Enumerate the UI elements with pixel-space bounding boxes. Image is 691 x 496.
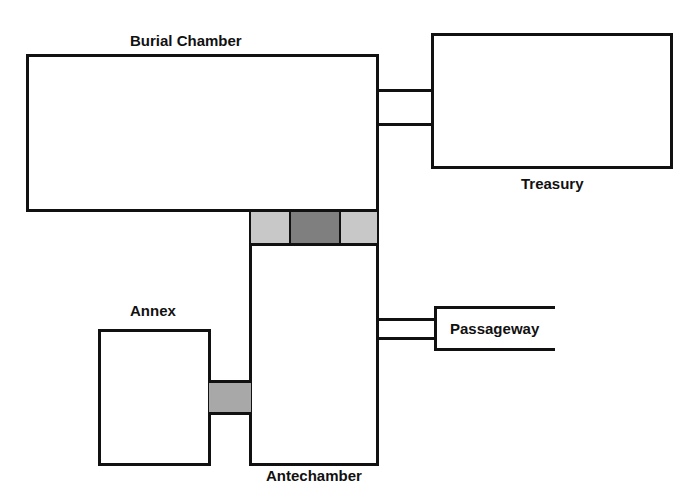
sealed-doorway-left-segment <box>249 210 291 245</box>
antechamber-room <box>249 243 379 466</box>
passageway-corridor-bottom-line <box>378 337 436 340</box>
annex-label: Annex <box>130 302 176 319</box>
passageway-corridor-top-line <box>378 318 436 321</box>
passageway-top-line <box>434 306 555 309</box>
passageway-label: Passageway <box>450 320 539 337</box>
burial-chamber-room <box>26 54 379 212</box>
treasury-label: Treasury <box>521 175 584 192</box>
sealed-doorway-center-segment <box>289 210 341 245</box>
annex-room <box>98 329 211 466</box>
treasury-corridor-top-line <box>378 89 432 92</box>
passageway-left-edge <box>434 306 437 351</box>
sealed-doorway-right-segment <box>339 210 379 245</box>
treasury-corridor-bottom-line <box>378 123 432 126</box>
passageway-bottom-line <box>434 348 555 351</box>
treasury-room <box>431 33 673 169</box>
antechamber-label: Antechamber <box>266 467 362 484</box>
annex-doorway <box>209 380 251 415</box>
burial-chamber-label: Burial Chamber <box>130 32 242 49</box>
